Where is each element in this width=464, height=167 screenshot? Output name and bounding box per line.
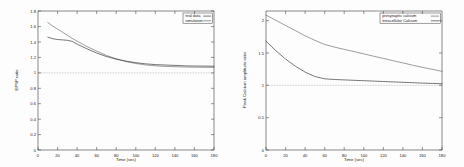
left-axis-frame <box>38 11 214 150</box>
left-ytick-7: 1.4 <box>30 40 36 45</box>
left-yaxis-title: EPSP ratio <box>14 69 19 91</box>
right-ytick-3: 1.5 <box>258 51 264 56</box>
left-xtick-3: 60 <box>94 153 99 158</box>
left-xtick-9: 180 <box>211 153 219 158</box>
figure-container: 0 0.2 0.4 0.6 0.8 1 1.2 1.4 1.6 1.8 <box>0 0 464 167</box>
right-chart-svg: 0 0.5 1 1.5 2 <box>232 0 464 167</box>
left-ytick-1: 0.2 <box>30 132 36 137</box>
left-legend-label-1: simulation <box>185 18 203 23</box>
chart-panel-right: 0 0.5 1 1.5 2 <box>232 0 464 167</box>
chart-panel-left: 0 0.2 0.4 0.6 0.8 1 1.2 1.4 1.6 1.8 <box>0 0 232 167</box>
left-ytick-3: 0.6 <box>30 101 36 106</box>
right-xtick-7: 140 <box>399 153 407 158</box>
left-xtick-2: 40 <box>75 153 80 158</box>
right-xtick-0: 0 <box>265 153 268 158</box>
right-series-presynaptic-calcium-line <box>266 15 442 71</box>
right-xtick-2: 40 <box>303 153 308 158</box>
right-yaxis-title: Peak Calcium amplitude ratio <box>242 51 247 107</box>
left-ytick-8: 1.6 <box>30 24 36 29</box>
left-xtick-7: 140 <box>171 153 179 158</box>
right-series-intracellular-calcium-line <box>266 41 442 84</box>
left-series-real-data-line <box>48 37 214 66</box>
right-ytick-1: 0.5 <box>258 115 264 120</box>
left-chart-svg: 0 0.2 0.4 0.6 0.8 1 1.2 1.4 1.6 1.8 <box>0 0 232 167</box>
right-ytick-2: 1 <box>262 83 265 88</box>
right-xtick-8: 160 <box>419 153 427 158</box>
right-legend-label-1: intracellular Calcium <box>382 18 417 23</box>
left-xtick-0: 0 <box>37 153 40 158</box>
right-y-tick-labels: 0 0.5 1 1.5 2 <box>258 18 264 152</box>
left-xaxis-title: Time (sec) <box>116 157 137 162</box>
left-ytick-2: 0.4 <box>30 117 36 122</box>
left-xtick-6: 120 <box>152 153 160 158</box>
right-xtick-3: 60 <box>322 153 327 158</box>
left-xtick-8: 160 <box>191 153 199 158</box>
left-ytick-9: 1.8 <box>30 9 36 14</box>
right-legend: presynaptic calcium intracellular Calciu… <box>380 13 441 23</box>
right-ytick-4: 2 <box>262 18 265 23</box>
left-y-tick-labels: 0 0.2 0.4 0.6 0.8 1 1.2 1.4 1.6 1.8 <box>30 9 36 153</box>
right-xaxis-title: Time (sec) <box>344 157 365 162</box>
left-y-axis-ticks <box>38 11 214 150</box>
left-ytick-4: 0.8 <box>30 86 36 91</box>
right-xtick-6: 120 <box>380 153 388 158</box>
left-series-simulation-line <box>48 23 214 68</box>
right-xtick-1: 20 <box>283 153 288 158</box>
left-xtick-1: 20 <box>55 153 60 158</box>
left-ytick-5: 1 <box>34 70 37 75</box>
left-ytick-6: 1.2 <box>30 55 36 60</box>
right-xtick-9: 180 <box>439 153 447 158</box>
left-x-axis-ticks <box>38 11 214 150</box>
left-legend: real data simulation <box>183 13 213 23</box>
